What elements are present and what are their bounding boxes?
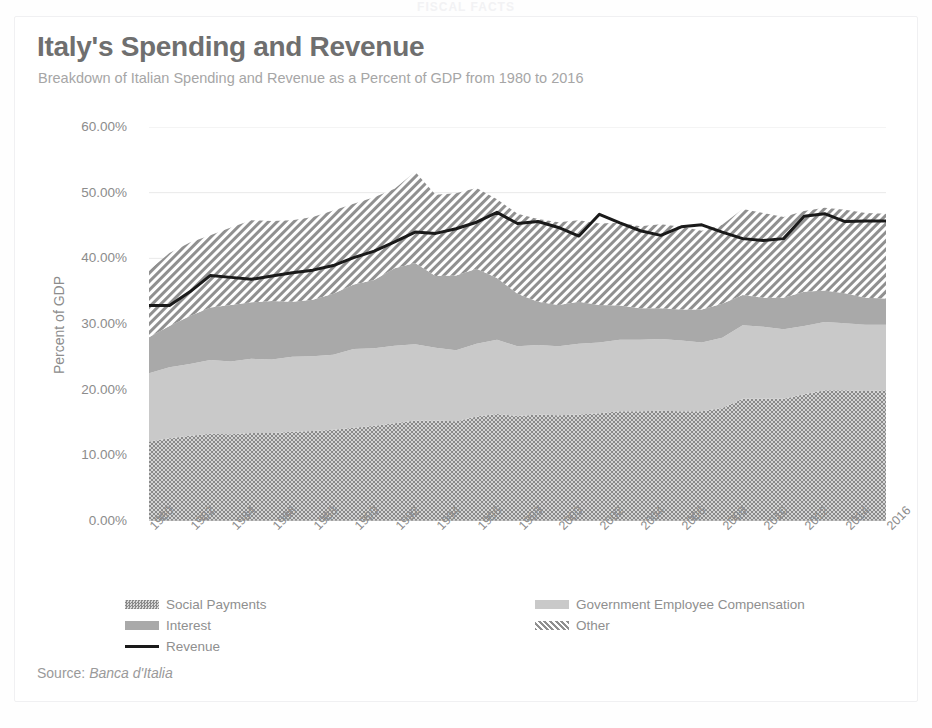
legend-label: Revenue — [166, 639, 220, 654]
legend-label: Interest — [166, 618, 211, 633]
y-axis-tick-5000: 50.00% — [35, 185, 127, 200]
legend-item-government-employee-compensation[interactable]: Government Employee Compensation — [535, 595, 805, 614]
legend-item-interest[interactable]: Interest — [125, 616, 211, 635]
chart-page: FISCAL FACTS Italy's Spending and Revenu… — [0, 0, 932, 728]
legend-swatch-solid-gray-icon — [125, 621, 159, 630]
legend-swatch-solid-lightgray-icon — [535, 600, 569, 609]
x-axis-tick-labels: 1980198219841986198819901992199419961998… — [149, 523, 886, 583]
chart-legend: Social PaymentsGovernment Employee Compe… — [125, 595, 885, 657]
source-name: Banca d'Italia — [89, 665, 173, 681]
y-axis-tick-000: 0.00% — [35, 513, 127, 528]
legend-label: Other — [576, 618, 610, 633]
y-axis-tick-3000: 30.00% — [35, 316, 127, 331]
legend-label: Government Employee Compensation — [576, 597, 805, 612]
y-axis-tick-4000: 40.00% — [35, 250, 127, 265]
x-axis-tick-2016: 2016 — [884, 503, 914, 533]
source-prefix: Source: — [37, 665, 85, 681]
y-axis-tick-6000: 60.00% — [35, 119, 127, 134]
legend-swatch-pattern-dots-dark-icon — [125, 600, 159, 609]
plot-area — [149, 127, 886, 521]
legend-item-revenue[interactable]: Revenue — [125, 637, 220, 656]
legend-swatch-pattern-diagonal-icon — [535, 621, 569, 630]
y-axis-tick-2000: 20.00% — [35, 382, 127, 397]
legend-label: Social Payments — [166, 597, 267, 612]
source-note: Source: Banca d'Italia — [37, 665, 173, 681]
page-header-clipped-text: FISCAL FACTS — [0, 0, 932, 16]
legend-swatch-line-icon — [125, 642, 159, 651]
y-axis-tick-labels: 0.00%10.00%20.00%30.00%40.00%50.00%60.00… — [35, 17, 127, 703]
y-axis-tick-1000: 10.00% — [35, 447, 127, 462]
chart-card: Italy's Spending and Revenue Breakdown o… — [14, 16, 918, 702]
legend-item-social-payments[interactable]: Social Payments — [125, 595, 267, 614]
legend-item-other[interactable]: Other — [535, 616, 610, 635]
